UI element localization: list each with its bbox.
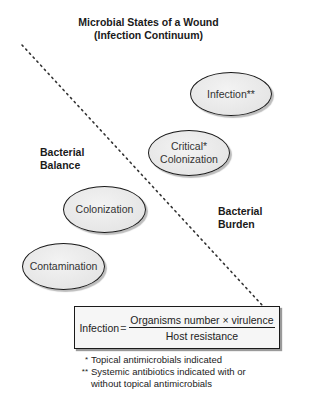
state-label-line-2: Colonization [160,153,218,166]
bacterial-burden-label: Bacterial Burden [218,205,262,231]
state-label-line-1: Critical* [160,140,218,153]
state-label: Colonization [76,203,134,216]
formula-lhs: Infection [79,322,119,334]
state-label: Contamination [30,260,98,273]
formula-fraction: Organisms number × virulence Host resist… [129,314,274,342]
footnote-1: * Topical antimicrobials indicated [78,354,268,366]
footnote-2: ** Systemic antibiotics indicated with o… [78,366,268,390]
state-colonization: Colonization [63,186,146,233]
infection-formula-box: Infection = Organisms number × virulence… [74,306,280,349]
footnote-text: Topical antimicrobials indicated [91,354,222,366]
state-critical-colonization: Critical* Colonization [148,130,230,176]
state-infection: Infection** [190,72,272,116]
footnote-mark: * [78,354,91,366]
state-contamination: Contamination [22,243,105,290]
footnote-mark: ** [78,366,91,390]
region-left-line-2: Balance [40,159,84,172]
region-right-line-2: Burden [218,218,262,231]
state-label: Infection** [207,88,255,101]
footnote-text: Systemic antibiotics indicated with or w… [91,366,268,390]
formula-equals: = [120,322,126,334]
formula-denominator: Host resistance [166,328,238,342]
bacterial-balance-label: Bacterial Balance [40,146,84,172]
footnotes: * Topical antimicrobials indicated ** Sy… [78,354,268,390]
formula-numerator: Organisms number × virulence [129,314,274,328]
region-left-line-1: Bacterial [40,146,84,159]
region-right-line-1: Bacterial [218,205,262,218]
